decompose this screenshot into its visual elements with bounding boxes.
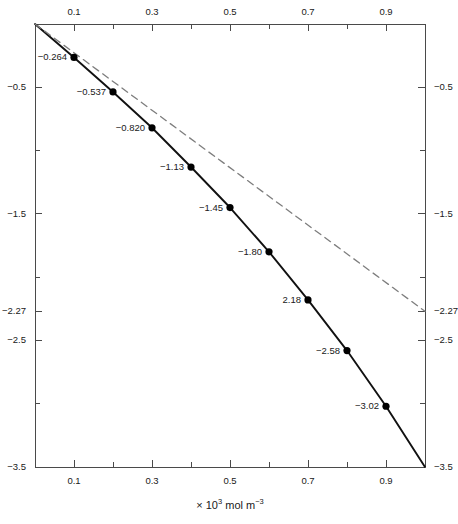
marker-layer: [70, 54, 389, 410]
y-tick-label-left: −2.5: [7, 336, 26, 346]
data-point-marker: [382, 403, 389, 410]
data-point-marker: [304, 296, 311, 303]
xlabel-exponent-2: −3: [255, 497, 264, 506]
y-tick-label-left: −0.5: [7, 83, 26, 93]
data-point-marker: [187, 163, 194, 170]
data-point-label: −1.13: [160, 162, 184, 172]
x-axis-title: × 103 mol m−3: [196, 500, 263, 511]
y-tick-label-left: −2.27: [2, 307, 26, 317]
x-tick-label-bottom: 0.9: [379, 476, 392, 486]
data-point-label: 2.18: [283, 295, 302, 305]
xlabel-exponent-1: 3: [218, 497, 222, 506]
data-point-marker: [226, 204, 233, 211]
y-tick-label-right: −3.5: [434, 462, 453, 472]
data-point-marker: [265, 248, 272, 255]
y-tick-label-right: −2.5: [434, 336, 453, 346]
x-tick-label-top: 0.5: [223, 7, 236, 17]
data-point-marker: [70, 54, 77, 61]
data-point-label: −0.820: [116, 123, 145, 133]
x-tick-label-bottom: 0.5: [223, 476, 236, 486]
y-tick-label-left: −3.5: [7, 462, 26, 472]
x-tick-label-top: 0.1: [67, 7, 80, 17]
y-tick-label-right: −0.5: [434, 83, 453, 93]
data-point-marker: [343, 347, 350, 354]
x-tick-label-bottom: 0.7: [301, 476, 314, 486]
data-point-label: −2.58: [316, 346, 340, 356]
x-tick-label-bottom: 0.1: [67, 476, 80, 486]
y-tick-label-right: −2.27: [434, 307, 458, 317]
x-tick-label-top: 0.9: [379, 7, 392, 17]
series-line-ideal-reference-line: [35, 24, 425, 311]
data-point-marker: [148, 124, 155, 131]
y-tick-label-left: −1.5: [7, 209, 26, 219]
data-point-label: −1.45: [199, 203, 223, 213]
x-tick-label-bottom: 0.3: [145, 476, 158, 486]
data-point-label: −0.537: [77, 87, 106, 97]
x-tick-label-top: 0.3: [145, 7, 158, 17]
x-tick-label-top: 0.7: [301, 7, 314, 17]
data-point-label: −0.264: [38, 53, 67, 63]
data-point-label: −1.80: [238, 247, 262, 257]
y-tick-label-right: −1.5: [434, 209, 453, 219]
data-point-label: −3.02: [355, 401, 379, 411]
data-point-marker: [109, 88, 116, 95]
